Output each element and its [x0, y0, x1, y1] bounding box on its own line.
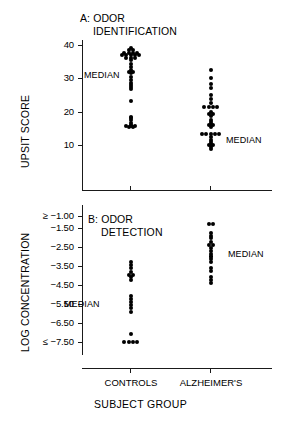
xtick-label-controls: CONTROLS — [95, 378, 167, 388]
data-point — [209, 68, 213, 72]
panel-a-y-axis-line — [82, 40, 83, 190]
data-point — [209, 76, 213, 80]
panel-b-ytick-label-2.50: −2.50 — [30, 242, 74, 252]
panel-b-ytick-label-3.50: −3.50 — [30, 261, 74, 271]
data-point — [202, 105, 206, 109]
data-point — [127, 340, 131, 344]
panel-a-ytick-30 — [78, 78, 82, 79]
panel-a-xtick-alzheimers — [210, 186, 211, 191]
data-point — [137, 53, 141, 57]
panel-a-ytick-20 — [78, 112, 82, 113]
data-point — [209, 260, 213, 264]
panel-b-title-line2: DETECTION — [101, 226, 163, 239]
panel-b-title-line1: B: ODOR — [88, 213, 133, 226]
panel-b-xtick-alzheimers — [210, 368, 211, 373]
panel-a-ytick-label-30: 30 — [46, 73, 74, 83]
panel-b-ytick-label-6.50: −6.50 — [30, 318, 74, 328]
data-point — [207, 222, 211, 226]
data-point — [209, 82, 213, 86]
data-point — [131, 125, 135, 129]
panel-a-ytick-label-40: 40 — [46, 40, 74, 50]
data-point — [204, 132, 208, 136]
data-point — [129, 99, 133, 103]
panel-a-ytick-10 — [78, 145, 82, 146]
panel-b-ytick-2.50 — [78, 247, 82, 248]
panel-b-ytick-label-7.50: ≤ −7.50 — [30, 337, 74, 347]
panel-b-ytick-1.50 — [78, 228, 82, 229]
panel-b-ytick-label-4.50: −4.50 — [30, 280, 74, 290]
panel-a-xtick-controls — [130, 186, 131, 191]
panel-a-title-line2: IDENTIFICATION — [93, 25, 177, 38]
data-point — [135, 340, 139, 344]
panel-b-y-axis-line — [82, 205, 83, 355]
panel-a-median-label-alzheimers: MEDIAN — [226, 136, 262, 145]
data-point — [133, 56, 137, 60]
panel-b-ytick-4.50 — [78, 285, 82, 286]
data-point — [124, 56, 128, 60]
xtick-label-alzheimers: ALZHEIMER'S — [172, 378, 250, 388]
figure-dot-plot-odor-study: A: ODOR IDENTIFICATION UPSIT SCORE 40 30… — [0, 0, 286, 431]
x-axis-title: SUBJECT GROUP — [94, 399, 187, 410]
panel-a-title-line1: A: ODOR — [80, 12, 125, 25]
data-point — [209, 269, 213, 273]
data-point — [209, 125, 213, 129]
panel-b-ytick-3.50 — [78, 266, 82, 267]
data-point — [127, 125, 131, 129]
data-point — [215, 105, 219, 109]
panel-a-x-axis-line — [82, 190, 272, 191]
panel-b-ytick-6.50 — [78, 323, 82, 324]
panel-b-median-label-controls: MEDIAN — [64, 300, 100, 309]
panel-b-median-label-alzheimers: MEDIAN — [228, 250, 264, 259]
panel-b-ytick-1.00 — [78, 216, 82, 217]
data-point — [129, 332, 133, 336]
data-point — [122, 340, 126, 344]
panel-b-ytick-label-1.00: ≥ −1.00 — [30, 211, 74, 221]
data-point — [217, 132, 221, 136]
data-point — [211, 222, 215, 226]
panel-a-ytick-40 — [78, 45, 82, 46]
data-point — [129, 278, 133, 282]
data-point — [129, 87, 133, 91]
data-point — [209, 147, 213, 151]
data-point — [209, 86, 213, 90]
panel-b-ytick-7.50 — [78, 342, 82, 343]
panel-a-median-label-controls: MEDIAN — [84, 71, 120, 80]
panel-b-x-axis-line — [82, 368, 272, 369]
panel-a-ytick-label-10: 10 — [46, 140, 74, 150]
data-point — [129, 310, 133, 314]
panel-a-ytick-label-20: 20 — [46, 107, 74, 117]
panel-b-xtick-controls — [130, 368, 131, 373]
panel-b-ytick-label-1.50: −1.50 — [30, 223, 74, 233]
panel-a-y-axis-title: UPSIT SCORE — [20, 95, 31, 168]
data-point — [209, 281, 213, 285]
data-point — [207, 105, 211, 109]
